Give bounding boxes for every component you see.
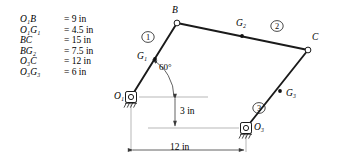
ground-pivot-O3-circle bbox=[243, 125, 248, 130]
link-1-number: 1 bbox=[146, 33, 150, 42]
ground-pivot-O1-circle bbox=[128, 94, 133, 99]
mass-center-label-G2: G₂ bbox=[236, 19, 246, 29]
joint-label-O1: O₁ bbox=[114, 92, 124, 102]
joint-label-C: C bbox=[312, 33, 318, 43]
mass-center-label-G1: G₁ bbox=[137, 52, 147, 62]
joint-label-B: B bbox=[172, 6, 178, 16]
ground-pivot-O1-hatching bbox=[124, 103, 136, 107]
joint-label-O3: O₃ bbox=[254, 123, 264, 133]
dimension-label-12in: 12 in bbox=[170, 143, 189, 153]
angle-label-60: 60° bbox=[159, 63, 172, 72]
link-3-number: 3 bbox=[257, 104, 261, 113]
joint-B-circle bbox=[174, 20, 180, 26]
link-2-number: 2 bbox=[275, 22, 279, 31]
linkage-figure: O₁B = 9 in O₁G₁ = 4.5 in BC = 15 in BG₂ … bbox=[0, 0, 345, 167]
ground-pivot-O1 bbox=[124, 92, 137, 108]
linkage-bars bbox=[131, 23, 308, 128]
mass-center-G2-dot bbox=[240, 34, 244, 38]
mass-center-G1-dot bbox=[153, 57, 157, 61]
ground-pivot-O3-hatching bbox=[239, 134, 251, 138]
joint-C-circle bbox=[305, 47, 311, 53]
mass-center-label-G3: G₃ bbox=[286, 89, 296, 99]
mass-center-G3-dot bbox=[278, 89, 282, 93]
dimension-label-3in: 3 in bbox=[180, 107, 195, 117]
link-3-bar bbox=[246, 50, 308, 128]
ground-pivot-O3 bbox=[239, 123, 252, 139]
